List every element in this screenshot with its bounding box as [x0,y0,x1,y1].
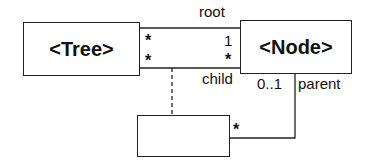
tree-root-multiplicity: * [145,33,151,49]
tree-child-multiplicity: * [145,53,151,69]
node-child-multiplicity: * [225,52,231,68]
child-role-label: child [202,71,233,86]
association-class-box [137,115,230,157]
parent-role-label: parent [298,76,341,91]
node-class-label: <Node> [259,36,332,59]
tree-class-label: <Tree> [49,38,114,61]
root-role-label: root [199,4,225,19]
node-root-multiplicity: 1 [224,33,232,48]
node-parent-multiplicity: 0..1 [257,76,282,91]
node-class-box: <Node> [240,20,352,74]
tree-class-box: <Tree> [23,22,140,76]
association-class-multiplicity: * [233,122,239,138]
